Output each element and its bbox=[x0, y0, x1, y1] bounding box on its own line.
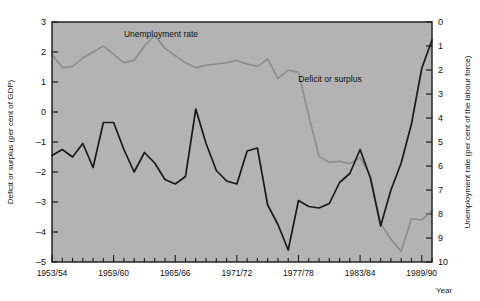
y-axis-left-tick-label: –2 bbox=[36, 167, 46, 177]
y-axis-right-tick-label: 8 bbox=[438, 209, 443, 219]
y-axis-right-tick-label: 4 bbox=[438, 113, 443, 123]
x-axis-tick-label: 1977/78 bbox=[283, 268, 314, 278]
annotation-deficit-or-surplus: Deficit or surplus bbox=[298, 74, 361, 84]
y-axis-right-tick-label: 1 bbox=[438, 41, 443, 51]
y-axis-right-tick-label: 0 bbox=[438, 17, 443, 27]
y-axis-right-title: Unemployment rate (per cent of the labou… bbox=[463, 55, 472, 228]
x-axis-tick-label: 1965/66 bbox=[160, 268, 191, 278]
chart-container: 3210–1–2–3–4–5 012345678910 1953/541959/… bbox=[0, 0, 480, 301]
y-axis-left-tick-label: –3 bbox=[36, 197, 46, 207]
y-axis-right-tick-label: 6 bbox=[438, 161, 443, 171]
dual-axis-line-chart: 3210–1–2–3–4–5 012345678910 1953/541959/… bbox=[0, 0, 480, 301]
y-axis-right-tick-label: 7 bbox=[438, 185, 443, 195]
y-axis-left-title: Deficit or surplus (per cent of GDP) bbox=[6, 79, 15, 204]
y-axis-left-tick-label: 3 bbox=[41, 17, 46, 27]
y-axis-right-tick-label: 2 bbox=[438, 65, 443, 75]
x-axis-tick-label: 1983/84 bbox=[345, 268, 376, 278]
x-axis-title: Year bbox=[436, 286, 453, 295]
y-axis-left-tick-label: 0 bbox=[41, 107, 46, 117]
x-axis-tick-label: 1971/72 bbox=[221, 268, 252, 278]
y-axis-left-tick-label: 2 bbox=[41, 47, 46, 57]
x-axis-tick-label: 1989/90 bbox=[406, 268, 437, 278]
annotation-unemployment-rate: Unemployment rate bbox=[124, 29, 198, 39]
plot-area-background bbox=[52, 22, 432, 262]
y-axis-left-tick-label: –5 bbox=[36, 257, 46, 267]
x-axis-tick-label: 1959/60 bbox=[98, 268, 129, 278]
y-axis-left-tick-label: 1 bbox=[41, 77, 46, 87]
y-axis-right-tick-label: 3 bbox=[438, 89, 443, 99]
y-axis-left-tick-label: –1 bbox=[36, 137, 46, 147]
y-axis-right-tick-label: 5 bbox=[438, 137, 443, 147]
y-axis-right-tick-label: 10 bbox=[438, 257, 448, 267]
y-axis-right-tick-label: 9 bbox=[438, 233, 443, 243]
x-axis-tick-label: 1953/54 bbox=[37, 268, 68, 278]
y-axis-left-tick-label: –4 bbox=[36, 227, 46, 237]
